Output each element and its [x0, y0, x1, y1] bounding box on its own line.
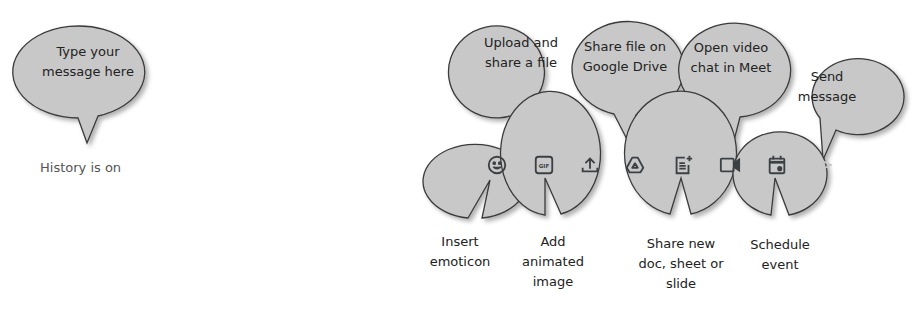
- history-status: History is on: [40, 160, 121, 175]
- calendar-event-icon: [766, 154, 788, 176]
- meet-button[interactable]: [719, 154, 741, 176]
- meet-video-icon: [719, 154, 741, 176]
- gif-icon: GIF: [533, 154, 555, 176]
- drive-button[interactable]: [624, 154, 646, 176]
- callout-upload-text: Upload and share a file: [478, 33, 564, 73]
- callout-drive-text: Share file on Google Drive: [580, 37, 670, 77]
- upload-button[interactable]: [579, 154, 601, 176]
- schedule-button[interactable]: [766, 154, 788, 176]
- callout-doc-text: Share new doc, sheet or slide: [632, 234, 730, 294]
- new-doc-button[interactable]: [672, 154, 694, 176]
- callout-gif-text: Add animated image: [520, 232, 586, 292]
- callout-emoticon-text: Insert emoticon: [415, 232, 505, 272]
- upload-icon: [579, 154, 601, 176]
- gif-button[interactable]: GIF: [533, 154, 555, 176]
- send-icon: [812, 154, 834, 176]
- callout-message-text: Type your message here: [28, 42, 148, 82]
- emoji-button[interactable]: [486, 154, 508, 176]
- callout-doc: [625, 91, 737, 214]
- callout-schedule-text: Schedule event: [743, 235, 817, 275]
- new-doc-icon: [672, 154, 694, 176]
- send-button[interactable]: [812, 154, 834, 176]
- callout-meet-text: Open video chat in Meet: [685, 38, 777, 78]
- svg-text:GIF: GIF: [539, 163, 550, 169]
- callout-send-text: Send message: [791, 67, 863, 107]
- emoji-icon: [486, 154, 508, 176]
- google-drive-icon: [624, 154, 646, 176]
